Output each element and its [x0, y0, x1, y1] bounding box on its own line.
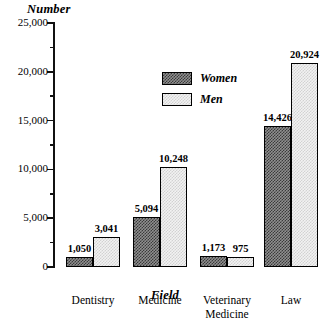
plot-area: 1,0503,041Dentistry5,09410,248Medicine1,…: [54, 23, 318, 267]
legend-swatch-women: [162, 72, 192, 85]
bar-value-label: 20,924: [285, 49, 324, 60]
legend-label-men: Men: [200, 92, 223, 107]
y-tick-label: 20,000: [0, 65, 48, 77]
y-tick-label: 10,000: [0, 162, 48, 174]
y-axis-title: Number: [27, 2, 71, 17]
y-tick-label: 25,000: [0, 16, 48, 28]
legend-label-women: Women: [200, 71, 237, 86]
legend-swatch-men: [162, 93, 192, 106]
bar-dentistry-women[interactable]: [66, 257, 93, 267]
x-axis-title: Field: [0, 288, 330, 303]
bar-value-label: 975: [221, 243, 260, 254]
y-tick-label: 5,000: [0, 211, 48, 223]
bar-law-men[interactable]: [291, 63, 318, 267]
y-tick-label: 0: [0, 260, 48, 272]
bar-dentistry-men[interactable]: [93, 237, 120, 267]
bar-value-label: 3,041: [87, 223, 126, 234]
bar-medicine-women[interactable]: [133, 217, 160, 267]
bar-veterinary-medicine-women[interactable]: [200, 256, 227, 267]
y-tick-label: 15,000: [0, 114, 48, 126]
bar-medicine-men[interactable]: [160, 167, 187, 267]
bar-value-label: 10,248: [154, 153, 193, 164]
bar-veterinary-medicine-men[interactable]: [227, 257, 254, 267]
category-label-line: Medicine: [182, 307, 272, 321]
bar-law-women[interactable]: [264, 126, 291, 267]
